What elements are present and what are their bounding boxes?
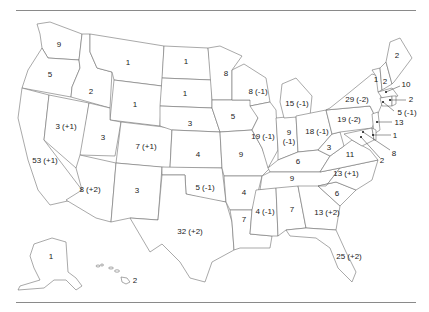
label-NC: 13 (+1) bbox=[333, 169, 359, 178]
label-VT: 1 bbox=[374, 75, 379, 84]
label-UT: 3 bbox=[101, 133, 106, 142]
bottom-rule bbox=[16, 302, 416, 303]
label-NE: 3 bbox=[188, 119, 193, 128]
label-MA: 10 bbox=[402, 80, 411, 89]
label-PA: 19 (-2) bbox=[337, 115, 361, 124]
label-SC: 6 bbox=[335, 189, 340, 198]
label-WI: 8 (-1) bbox=[248, 87, 267, 96]
us-map: 9 5 53 (+1) 3 (+1) 2 1 1 3 8 (+2) 7 (+1)… bbox=[0, 0, 429, 312]
label-KS: 4 bbox=[196, 150, 201, 159]
label-NV: 3 (+1) bbox=[55, 122, 76, 131]
label-VA: 11 bbox=[346, 150, 355, 159]
label-MD: 8 bbox=[392, 149, 397, 158]
label-HI: 2 bbox=[133, 276, 138, 285]
state-ME[interactable] bbox=[386, 38, 412, 84]
label-OH: 18 (-1) bbox=[305, 127, 329, 136]
label-AR: 4 bbox=[242, 188, 247, 197]
label-WA: 9 bbox=[57, 40, 62, 49]
label-MS: 4 (-1) bbox=[255, 207, 274, 216]
label-RI: 2 bbox=[409, 95, 414, 104]
label-TN: 9 bbox=[290, 174, 295, 183]
label-AL: 7 bbox=[290, 205, 295, 214]
label-CO: 7 (+1) bbox=[135, 142, 156, 151]
label-KY: 6 bbox=[296, 157, 301, 166]
label-IL: 19 (-1) bbox=[251, 132, 275, 141]
label-NM: 3 bbox=[135, 186, 140, 195]
state-AK[interactable] bbox=[18, 238, 82, 290]
label-MO: 9 bbox=[239, 150, 244, 159]
label-OK: 5 (-1) bbox=[195, 183, 214, 192]
state-KS[interactable] bbox=[170, 130, 222, 168]
label-TX: 32 (+2) bbox=[177, 227, 203, 236]
label-MI: 15 (-1) bbox=[285, 99, 309, 108]
label-WV: 3 bbox=[327, 143, 332, 152]
label-NJ: 13 bbox=[395, 118, 404, 127]
label-WY: 1 bbox=[133, 100, 138, 109]
label-CA: 53 (+1) bbox=[32, 156, 58, 165]
label-IN-change: (-1) bbox=[283, 137, 296, 146]
label-LA: 7 bbox=[242, 215, 247, 224]
state-WI[interactable] bbox=[232, 64, 270, 106]
label-GA: 13 (+2) bbox=[314, 208, 340, 217]
label-IA: 5 bbox=[231, 112, 236, 121]
label-MT: 1 bbox=[126, 58, 131, 67]
label-ME: 2 bbox=[395, 51, 400, 60]
label-FL: 25 (+2) bbox=[336, 252, 362, 261]
label-MN: 8 bbox=[224, 69, 229, 78]
state-HI[interactable] bbox=[96, 264, 130, 284]
label-SD: 1 bbox=[183, 89, 188, 98]
label-AK: 1 bbox=[49, 252, 54, 261]
label-NY: 29 (-2) bbox=[345, 95, 369, 104]
label-DC: 2 bbox=[380, 156, 385, 165]
label-DE: 1 bbox=[393, 131, 398, 140]
state-RI[interactable] bbox=[392, 96, 396, 106]
state-MI[interactable] bbox=[280, 78, 312, 118]
label-CT: 5 (-1) bbox=[397, 108, 416, 117]
label-OR: 5 bbox=[48, 70, 53, 79]
label-NH: 2 bbox=[383, 77, 388, 86]
label-IN: 9 bbox=[287, 128, 292, 137]
label-AZ: 8 (+2) bbox=[79, 185, 100, 194]
label-ID: 2 bbox=[89, 87, 94, 96]
label-ND: 1 bbox=[184, 57, 189, 66]
